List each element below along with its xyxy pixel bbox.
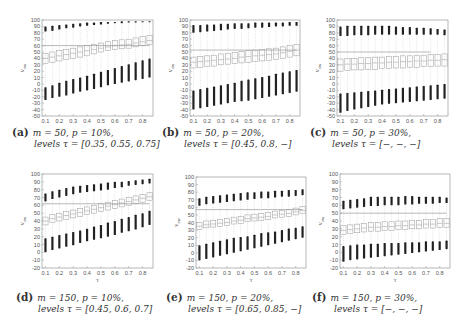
boxplot-f: -20-1001020304050607080901000.10.20.30.4… <box>300 158 460 283</box>
outlier-cluster-lower <box>93 74 95 89</box>
x-tick-label: 0.3 <box>223 270 231 276</box>
y-tick-label: -20 <box>32 94 40 100</box>
y-tick-label: -10 <box>330 257 338 263</box>
outlier-cluster-lower <box>114 68 116 84</box>
x-tick-label: 0.7 <box>420 118 428 124</box>
x-tick-label: 0.1 <box>196 270 204 276</box>
outlier-cluster-lower <box>261 77 263 98</box>
y-tick-label: 60 <box>34 43 40 49</box>
boxplot-b: -50-40-30-20-1001020304050607080901000.1… <box>150 0 310 125</box>
outlier-cluster-upper <box>128 21 130 22</box>
caption-line2: levels τ = [−, −, −] <box>312 304 422 315</box>
y-tick-label: 90 <box>188 182 194 188</box>
x-tick-label: 0.2 <box>350 118 358 124</box>
outlier-cluster-upper <box>339 26 341 36</box>
y-tick-label: -20 <box>32 265 40 271</box>
y-tick-label: 40 <box>34 218 40 224</box>
outlier-cluster-lower <box>65 81 67 96</box>
x-tick-label: 0.2 <box>353 270 361 276</box>
x-tick-label: 0.8 <box>139 270 147 276</box>
x-tick-label: 0.6 <box>406 118 414 124</box>
outlier-cluster-upper <box>281 191 283 197</box>
y-tick-label: 60 <box>329 43 335 49</box>
outlier-cluster-lower <box>233 238 235 253</box>
outlier-cluster-lower <box>390 243 392 256</box>
outlier-cluster-lower <box>363 245 365 259</box>
outlier-cluster-lower <box>58 83 60 97</box>
outlier-cluster-lower <box>439 241 441 250</box>
outlier-cluster-upper <box>425 197 427 204</box>
x-tick-label: 0.4 <box>83 270 91 276</box>
x-tick-label: 0.8 <box>139 118 147 124</box>
y-tick-label: 30 <box>34 62 40 68</box>
outlier-cluster-upper <box>141 179 143 184</box>
outlier-cluster-upper <box>58 25 60 29</box>
y-axis-label: vsw <box>314 63 322 73</box>
outlier-cluster-lower <box>253 235 255 249</box>
outlier-cluster-upper <box>114 22 116 23</box>
y-tick-label: 100 <box>179 17 188 23</box>
caption-line1: m = 50, p = 10%, <box>33 128 114 138</box>
outlier-cluster-lower <box>295 228 297 239</box>
y-tick-label: 90 <box>34 179 40 185</box>
outlier-cluster-lower <box>58 235 60 248</box>
outlier-cluster-lower <box>289 71 291 93</box>
y-tick-label: -40 <box>180 107 188 113</box>
outlier-cluster-lower <box>72 79 74 94</box>
x-axis-label: τ <box>96 277 99 283</box>
y-tick-label: 70 <box>34 195 40 201</box>
y-tick-label: 0 <box>185 81 188 87</box>
y-tick-label: 20 <box>34 68 40 74</box>
outlier-cluster-upper <box>377 197 379 206</box>
y-tick-label: 80 <box>188 189 194 195</box>
subplot-e: -20-1001020304050607080901000.10.20.30.4… <box>156 158 311 313</box>
outlier-cluster-lower <box>51 237 53 250</box>
outlier-cluster-upper <box>226 194 228 202</box>
outlier-cluster-lower <box>79 78 81 92</box>
y-tick-label: -10 <box>32 87 40 93</box>
y-tick-label: 80 <box>182 30 188 36</box>
outlier-cluster-upper <box>199 25 201 32</box>
outlier-cluster-lower <box>409 87 411 102</box>
outlier-cluster-lower <box>367 91 369 107</box>
y-tick-label: 0 <box>332 81 335 87</box>
x-tick-label: 0.1 <box>340 270 348 276</box>
outlier-cluster-upper <box>240 193 242 201</box>
x-tick-label: 0.6 <box>264 270 272 276</box>
outlier-cluster-lower <box>342 246 344 262</box>
caption-d: (d)m = 150, p = 10%, levels τ = [0.45, 0… <box>16 292 152 315</box>
caption-tag: (c) <box>310 126 326 138</box>
caption-f: (f)m = 150, p = 30%, levels τ = [−, −, −… <box>312 292 422 315</box>
y-tick-label: 30 <box>34 226 40 232</box>
y-tick-label: 30 <box>188 227 194 233</box>
outlier-cluster-lower <box>384 243 386 256</box>
y-tick-label: 50 <box>329 49 335 55</box>
outlier-cluster-upper <box>430 28 432 34</box>
y-tick-label: 20 <box>332 234 338 240</box>
y-tick-label: 20 <box>182 68 188 74</box>
outlier-cluster-upper <box>247 23 249 28</box>
outlier-cluster-upper <box>346 26 348 36</box>
outlier-cluster-lower <box>192 90 194 109</box>
outlier-cluster-upper <box>409 27 411 35</box>
y-tick-label: 90 <box>34 23 40 29</box>
caption-line1: m = 50, p = 20%, <box>183 128 264 138</box>
y-tick-label: -20 <box>327 94 335 100</box>
y-tick-label: 40 <box>332 218 338 224</box>
caption-a: (a)m = 50, p = 10%, levels τ = [0.35, 0.… <box>12 127 160 150</box>
y-tick-label: 60 <box>34 202 40 208</box>
y-tick-label: 80 <box>34 30 40 36</box>
outlier-cluster-lower <box>72 232 74 245</box>
outlier-cluster-lower <box>430 85 432 100</box>
outlier-cluster-upper <box>93 184 95 191</box>
y-tick-label: 10 <box>34 242 40 248</box>
outlier-cluster-lower <box>404 242 406 254</box>
outlier-cluster-lower <box>395 88 397 103</box>
outlier-cluster-upper <box>349 200 351 209</box>
y-tick-label: 30 <box>329 62 335 68</box>
y-tick-label: -50 <box>180 113 188 119</box>
y-tick-label: 50 <box>188 212 194 218</box>
outlier-cluster-upper <box>353 26 355 36</box>
outlier-cluster-lower <box>100 72 102 87</box>
y-tick-label: 70 <box>182 36 188 42</box>
